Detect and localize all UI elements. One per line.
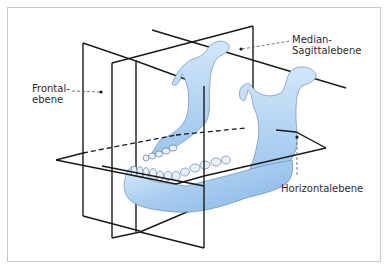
leader-sagittal: [239, 41, 290, 51]
label-median-sagittal-plane: Median- Sagittalebene: [292, 34, 362, 56]
label-frontal-plane: Frontal- ebene: [32, 83, 70, 105]
leader-frontal: [72, 90, 103, 93]
sagittal-bottom-edge: [140, 232, 204, 248]
teeth: [131, 145, 231, 181]
label-horizontal-plane: Horizontalebene: [281, 183, 363, 194]
